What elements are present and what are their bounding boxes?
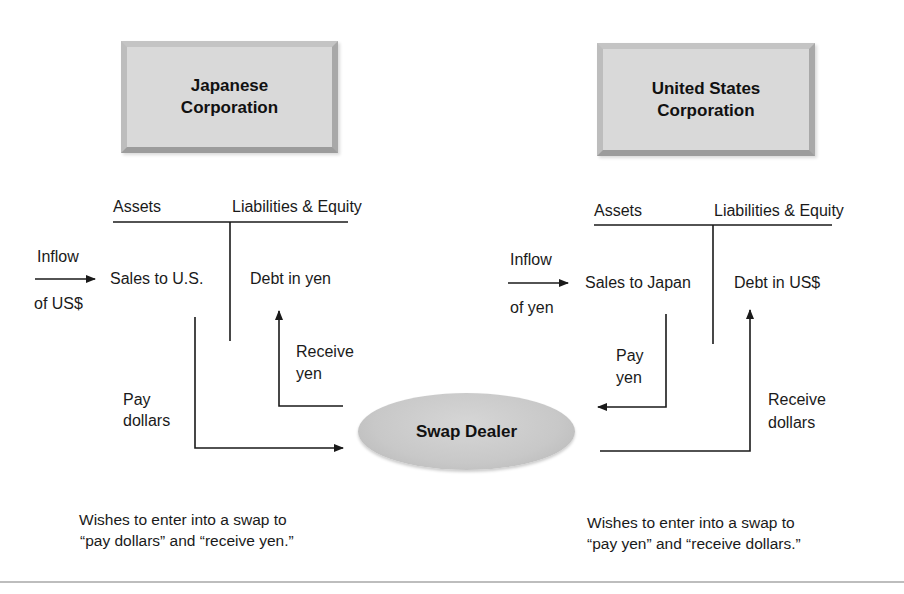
jp-assets-header: Assets [113,197,161,217]
swap-dealer-label: Swap Dealer [416,422,517,442]
us-liabilities-header: Liabilities & Equity [714,201,844,221]
japanese-corporation-box: Japanese Corporation [121,41,338,153]
us-title-line1: United States [652,78,761,100]
jp-liabilities-header: Liabilities & Equity [232,197,362,217]
us-inflow-label-bottom: of yen [510,298,554,318]
us-title-line2: Corporation [652,100,761,122]
jp-asset-entry: Sales to U.S. [110,269,203,289]
jp-note-line1: Wishes to enter into a swap to [79,510,287,530]
swap-dealer-ellipse: Swap Dealer [358,393,575,470]
jp-inflow-label-bottom: of US$ [34,294,83,314]
jp-pay-label-line1: Pay [123,390,151,410]
us-pay-label-line1: Pay [616,346,644,366]
us-assets-header: Assets [594,201,642,221]
us-asset-entry: Sales to Japan [585,273,691,293]
jp-receive-label-line2: yen [296,364,322,384]
us-corporation-box: United States Corporation [597,43,815,156]
us-note-line1: Wishes to enter into a swap to [587,513,795,533]
jp-liability-entry: Debt in yen [250,269,331,289]
us-note-line2: “pay yen” and “receive dollars.” [587,534,801,554]
jp-inflow-label-top: Inflow [37,247,79,267]
us-liability-entry: Debt in US$ [734,273,820,293]
jp-pay-label-line2: dollars [123,411,170,431]
jp-note-line2: “pay dollars” and “receive yen.” [80,531,294,551]
us-pay-label-line2: yen [616,368,642,388]
jp-title-line2: Corporation [181,97,278,119]
bottom-divider [0,581,904,583]
us-inflow-label-top: Inflow [510,250,552,270]
jp-receive-label-line1: Receive [296,342,354,362]
us-receive-label-line1: Receive [768,390,826,410]
us-receive-label-line2: dollars [768,413,815,433]
jp-title-line1: Japanese [181,75,278,97]
